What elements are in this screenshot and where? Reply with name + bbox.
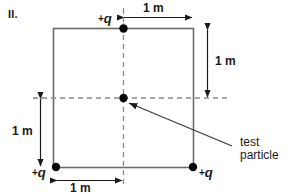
part-label: II.: [8, 8, 18, 20]
charge-symbol-bottom-left: q: [38, 165, 46, 180]
charge-label-bottom-left: +q: [32, 166, 46, 181]
test-particle-leader-line: [129, 103, 232, 146]
test-particle-label-line1: test: [240, 136, 279, 149]
test-particle-dot: [119, 94, 127, 102]
dimension-label-top: 1 m: [143, 2, 164, 15]
charge-dot-bottom-right: [189, 163, 197, 171]
charge-dot-top-center: [119, 24, 127, 32]
charge-label-top-center: +q: [98, 12, 112, 27]
test-particle-label: test particle: [240, 136, 279, 163]
physics-diagram-figure: II. +q +q +q 1 m 1 m 1 m 1 m test partic…: [0, 0, 288, 194]
charge-symbol-bottom-right: q: [205, 165, 213, 180]
charge-symbol-top-center: q: [104, 11, 112, 26]
dimension-label-right: 1 m: [215, 55, 236, 68]
charge-dot-bottom-left: [52, 163, 60, 171]
test-particle-label-line2: particle: [240, 149, 279, 162]
dimension-label-bottom: 1 m: [70, 182, 91, 194]
dimension-label-left: 1 m: [12, 125, 33, 138]
charge-label-bottom-right: +q: [199, 166, 213, 181]
